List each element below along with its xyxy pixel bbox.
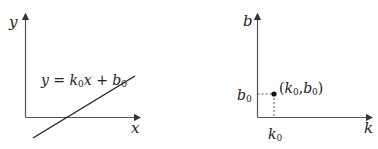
k0-tick-label: k0 [268,127,282,143]
right-k-axis-label: k [364,121,373,136]
pl-close: ) [318,80,323,96]
left-y-axis-label: y [9,15,17,30]
b0-sub: 0 [246,94,252,104]
point-k0-b0 [271,91,276,96]
eq-b: b [112,72,121,88]
point-label: (k0,b0) [279,81,323,97]
left-x-axis-label: x [131,121,139,136]
eq-lhs: y [41,72,49,88]
eq-plus: + [92,72,113,88]
line-equation: y = k0x + b0 [41,73,127,89]
eq-x: x [84,72,92,88]
eq-k: k [70,72,78,88]
pl-b: b [303,80,312,96]
k0-sub: 0 [276,133,282,143]
b0-base: b [237,87,246,103]
b0-tick-label: b0 [237,88,252,104]
eq-sign: = [49,72,70,88]
pl-k: k [284,80,292,96]
eq-b-sub: 0 [121,79,127,89]
right-b-axis-label: b [243,14,253,29]
